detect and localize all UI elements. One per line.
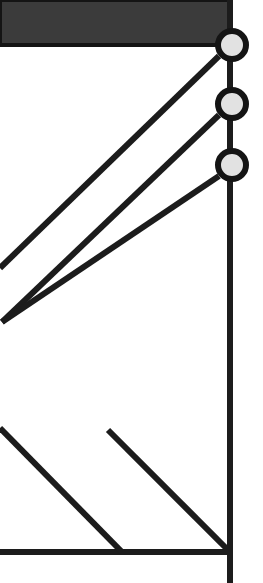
header-bar [0,0,230,45]
node-3[interactable] [218,151,246,179]
diagram-svg [0,0,263,583]
node-2[interactable] [218,90,246,118]
diagram-canvas [0,0,263,583]
node-1[interactable] [218,31,246,59]
canvas-background [0,0,263,583]
node-group [218,31,246,179]
